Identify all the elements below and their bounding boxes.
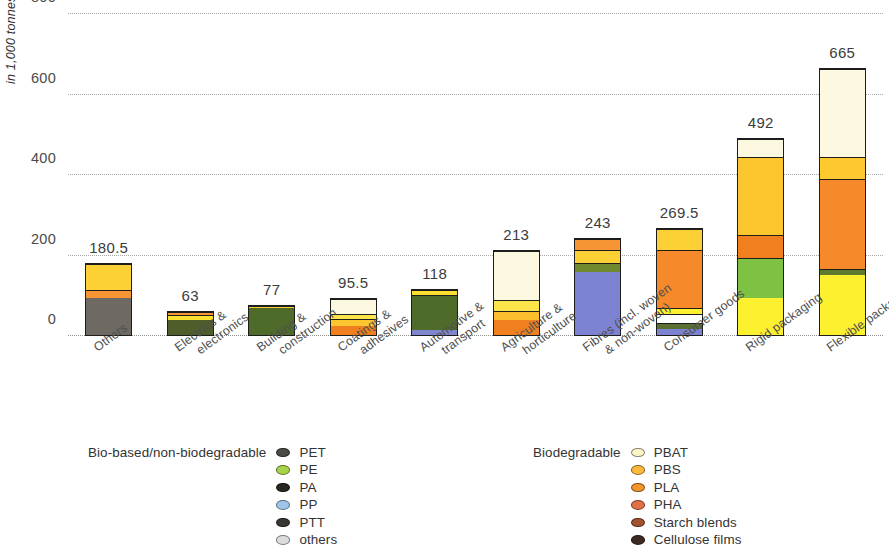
legend-item-label: Cellulose films bbox=[654, 532, 742, 547]
legend-item-label: PHA bbox=[654, 497, 682, 512]
legend-item[interactable]: Cellulose films bbox=[631, 532, 742, 549]
bar-group[interactable]: 243 bbox=[574, 14, 621, 336]
legend-item[interactable]: PP bbox=[276, 497, 337, 514]
legend-item-label: PLA bbox=[654, 480, 680, 495]
legend-item-label: PBAT bbox=[654, 445, 688, 460]
y-tick-400: 400 bbox=[8, 150, 56, 166]
plot-area: 0200400600800 180.5637795.5118213243269.… bbox=[68, 14, 883, 336]
legend-item-label: PP bbox=[299, 497, 317, 512]
legend-item[interactable]: PLA bbox=[631, 479, 742, 496]
legend-item[interactable]: Starch blends bbox=[631, 514, 742, 531]
bar-group[interactable]: 213 bbox=[493, 14, 540, 336]
legend-swatch-icon bbox=[276, 465, 290, 475]
bar-segment-pbs bbox=[575, 250, 620, 263]
bar-segment-pla bbox=[738, 235, 783, 257]
legend-swatch-icon bbox=[631, 483, 645, 493]
legend-swatch-icon bbox=[276, 518, 290, 528]
legend-item[interactable]: PTT bbox=[276, 514, 337, 531]
legend-swatch-icon bbox=[276, 483, 290, 493]
bar-group[interactable]: 665 bbox=[819, 14, 866, 336]
bar-segment-pla bbox=[820, 179, 865, 269]
bar-segment-pbat bbox=[738, 139, 783, 157]
legend-item-label: PBS bbox=[654, 462, 681, 477]
legend-right-title: Biodegradable bbox=[533, 444, 621, 460]
legend-item[interactable]: PE bbox=[276, 462, 337, 479]
bar-segment-pbat bbox=[494, 251, 539, 299]
y-tick-800: 800 bbox=[8, 0, 56, 5]
legend-item-label: PA bbox=[299, 480, 316, 495]
bar-value-label: 492 bbox=[748, 114, 774, 131]
legend-left-title: Bio-based/non-biodegradable bbox=[88, 444, 266, 460]
legend-biodegradable: Biodegradable PBATPBSPLAPHAStarch blends… bbox=[533, 444, 742, 549]
y-tick-600: 600 bbox=[8, 70, 56, 86]
bar-group[interactable]: 95.5 bbox=[330, 14, 377, 336]
legend-swatch-icon bbox=[276, 500, 290, 510]
legend-item[interactable]: PBS bbox=[631, 462, 742, 479]
bar-group[interactable]: 118 bbox=[411, 14, 458, 336]
bar-segment-pbs bbox=[657, 229, 702, 250]
legend-item-label: others bbox=[299, 532, 337, 547]
legend-item[interactable]: PBAT bbox=[631, 444, 742, 461]
bar-segment-pbat bbox=[820, 69, 865, 157]
bar-segment-pbs bbox=[738, 157, 783, 236]
legend-swatch-icon bbox=[276, 448, 290, 458]
stacked-bar[interactable] bbox=[819, 68, 866, 336]
bar-segment-pbs bbox=[86, 264, 131, 290]
legend-item-label: PET bbox=[299, 445, 325, 460]
legend-left-items: PETPEPAPPPTTothers bbox=[276, 444, 337, 548]
bar-group[interactable]: 77 bbox=[248, 14, 295, 336]
legend-bio-based: Bio-based/non-biodegradable PETPEPAPPPTT… bbox=[88, 444, 337, 548]
legend-item[interactable]: PET bbox=[276, 444, 337, 461]
legend-item-label: PE bbox=[299, 462, 317, 477]
legend-swatch-icon bbox=[276, 535, 290, 545]
bar-group[interactable]: 492 bbox=[737, 14, 784, 336]
bar-value-label: 213 bbox=[503, 226, 529, 243]
legend-item-label: Starch blends bbox=[654, 515, 737, 530]
bar-segment-pla bbox=[86, 290, 131, 298]
y-tick-200: 200 bbox=[8, 231, 56, 247]
bar-segment-pe bbox=[575, 263, 620, 272]
bar-value-label: 95.5 bbox=[338, 274, 368, 291]
bar-value-label: 63 bbox=[182, 287, 199, 304]
bar-segment-pla bbox=[575, 239, 620, 250]
bar-value-label: 243 bbox=[585, 214, 611, 231]
legend-item-label: PTT bbox=[299, 515, 325, 530]
bar-value-label: 665 bbox=[829, 44, 855, 61]
legend-swatch-icon bbox=[631, 500, 645, 510]
bar-value-label: 118 bbox=[422, 265, 447, 282]
legend-swatch-icon bbox=[631, 448, 645, 458]
chart-root: in 1,000 tonnes 0200400600800 180.563779… bbox=[0, 0, 889, 549]
bar-value-label: 269.5 bbox=[660, 204, 699, 221]
bar-segment-pbat bbox=[331, 299, 376, 315]
legend-item[interactable]: PA bbox=[276, 479, 337, 496]
legend-swatch-icon bbox=[631, 535, 645, 545]
bar-segment-pbs2 bbox=[494, 300, 539, 312]
legend-item[interactable]: PHA bbox=[631, 497, 742, 514]
y-tick-0: 0 bbox=[8, 311, 56, 327]
stacked-bar[interactable] bbox=[737, 138, 784, 336]
legend-swatch-icon bbox=[631, 465, 645, 475]
bar-segment-pe bbox=[738, 258, 783, 299]
legend-swatch-icon bbox=[631, 518, 645, 528]
bar-group[interactable]: 63 bbox=[167, 14, 214, 336]
legend-item[interactable]: others bbox=[276, 532, 337, 549]
bar-segment-pbs bbox=[820, 157, 865, 179]
bar-value-label: 77 bbox=[263, 281, 280, 298]
legend-right-items: PBATPBSPLAPHAStarch blendsCellulose film… bbox=[631, 444, 742, 549]
bar-value-label: 180.5 bbox=[89, 239, 128, 256]
bar-group[interactable]: 180.5 bbox=[85, 14, 132, 336]
